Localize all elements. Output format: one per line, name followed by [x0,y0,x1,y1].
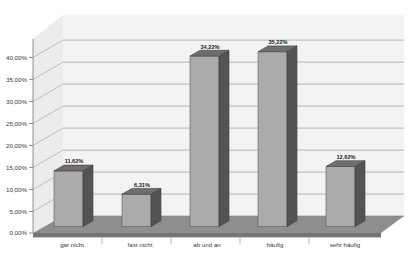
bar-front-face[interactable] [122,194,151,226]
bar-side-face[interactable] [219,50,229,226]
y-tick-label-15: 15,00% [6,164,27,171]
x-category-label-4: sehr häufig [330,241,361,248]
y-tick-label-40: 40,00% [6,54,27,61]
floor-front-edge [33,233,381,237]
y-tick-label-10: 10,00% [6,186,27,193]
bar-ab-und-an[interactable]: 34,22% [190,44,229,227]
bar-haeufig[interactable]: 35,22% [258,39,297,226]
y-tick-label-20: 20,00% [6,142,27,149]
x-category-label-3: häufig [267,241,284,248]
bar-chart-container: 40,00% 35,00% 30,00% 25,00% 20,00% 15,00… [0,0,414,266]
bar-side-face[interactable] [151,188,161,226]
bar-sehr-haeufig[interactable]: 12,62% [326,154,365,227]
bar-gar-nicht[interactable]: 11,62% [54,158,93,226]
y-tick-label-30: 30,00% [6,98,27,105]
x-category-label-1: fast nicht [128,241,153,248]
bar-front-face[interactable] [190,56,219,226]
y-tick-label-0: 0,00% [9,229,27,236]
bar-data-label: 35,22% [269,39,288,45]
bar-data-label: 11,62% [65,158,84,164]
y-axis: 40,00% 35,00% 30,00% 25,00% 20,00% 15,00… [6,39,33,236]
y-tick-label-25: 25,00% [6,120,27,127]
chart-canvas: 40,00% 35,00% 30,00% 25,00% 20,00% 15,00… [0,0,414,266]
bar-side-face[interactable] [355,161,365,227]
bar-data-label: 6,31% [134,182,150,188]
y-tick-label-35: 35,00% [6,76,27,83]
x-category-label-0: gar nicht [60,241,84,248]
bar-data-label: 12,62% [337,154,356,160]
bar-side-face[interactable] [287,46,297,227]
bar-front-face[interactable] [326,167,355,227]
bar-front-face[interactable] [258,52,287,227]
y-tick-label-5: 5,00% [9,208,27,215]
bar-side-face[interactable] [83,165,93,226]
x-category-label-2: ab und an [193,241,221,248]
bar-data-label: 34,22% [201,44,220,50]
bar-front-face[interactable] [54,171,83,227]
x-axis: gar nicht fast nicht ab und an häufig se… [33,237,381,248]
